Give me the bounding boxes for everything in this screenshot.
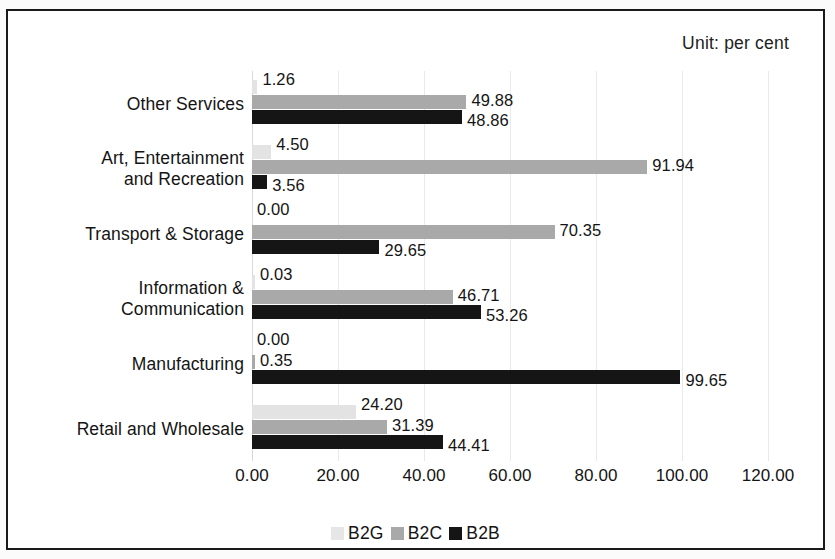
x-axis: 0.0020.0040.0060.0080.00100.00120.00 — [252, 466, 768, 492]
bar-group: 0.0070.3529.65 — [252, 210, 768, 257]
legend-label: B2B — [466, 523, 500, 544]
bar-b2b[interactable]: 48.86 — [252, 110, 462, 124]
bar-group: 0.000.3599.65 — [252, 340, 768, 387]
bar-b2c[interactable]: 49.88 — [252, 95, 466, 109]
category-row: Retail and Wholesale24.2031.3944.41 — [252, 396, 768, 461]
bar-b2c[interactable]: 91.94 — [252, 160, 647, 174]
x-tick-label: 40.00 — [402, 466, 445, 486]
legend-swatch-icon — [331, 527, 344, 540]
legend-label: B2G — [348, 523, 384, 544]
bar-b2c[interactable]: 70.35 — [252, 225, 555, 239]
bar-value-label: 29.65 — [384, 242, 426, 259]
bar-value-label: 0.03 — [260, 266, 293, 283]
bar-b2b[interactable]: 3.56 — [252, 175, 267, 189]
bar-b2c[interactable]: 31.39 — [252, 420, 387, 434]
bar-value-label: 3.56 — [272, 177, 305, 194]
plot-area: Other Services1.2649.8848.86Art, Enterta… — [252, 71, 768, 461]
x-tick-label: 120.00 — [742, 466, 795, 486]
bar-value-label: 44.41 — [448, 437, 490, 454]
x-tick-label: 60.00 — [488, 466, 531, 486]
chart-frame: Unit: per cent Other Services1.2649.8848… — [6, 9, 825, 550]
category-label: Art, Entertainment and Recreation — [0, 148, 244, 190]
legend-item-b2c[interactable]: B2C — [391, 523, 443, 544]
bar-b2g[interactable]: 24.20 — [252, 405, 356, 419]
category-row: Art, Entertainment and Recreation4.5091.… — [252, 136, 768, 201]
bar-group: 4.5091.943.56 — [252, 145, 768, 192]
bar-value-label: 24.20 — [361, 396, 403, 413]
legend-swatch-icon — [391, 527, 404, 540]
bar-value-label: 46.71 — [458, 287, 500, 304]
bar-b2g[interactable]: 1.26 — [252, 80, 257, 94]
bar-b2c[interactable]: 46.71 — [252, 290, 453, 304]
bar-b2b[interactable]: 53.26 — [252, 305, 481, 319]
category-label: Transport & Storage — [0, 223, 244, 244]
x-tick-label: 20.00 — [316, 466, 359, 486]
category-label: Retail and Wholesale — [0, 418, 244, 439]
chart-legend: B2GB2CB2B — [8, 523, 823, 544]
bar-b2b[interactable]: 99.65 — [252, 370, 680, 384]
category-label: Information & Communication — [0, 278, 244, 320]
legend-item-b2b[interactable]: B2B — [449, 523, 500, 544]
x-tick-label: 80.00 — [574, 466, 617, 486]
legend-swatch-icon — [449, 527, 462, 540]
x-tick-label: 0.00 — [235, 466, 269, 486]
bar-b2c[interactable]: 0.35 — [252, 355, 255, 369]
bar-value-label: 53.26 — [486, 307, 528, 324]
bar-value-label: 48.86 — [467, 112, 509, 129]
bar-value-label: 0.00 — [257, 331, 290, 348]
legend-item-b2g[interactable]: B2G — [331, 523, 384, 544]
bar-b2g[interactable]: 0.03 — [252, 275, 255, 289]
bar-value-label: 99.65 — [685, 372, 727, 389]
category-row: Transport & Storage0.0070.3529.65 — [252, 201, 768, 266]
bar-value-label: 70.35 — [560, 222, 602, 239]
page-background: Unit: per cent Other Services1.2649.8848… — [0, 0, 835, 559]
bar-value-label: 4.50 — [276, 136, 309, 153]
bar-b2g[interactable]: 4.50 — [252, 145, 271, 159]
gridline-120.00 — [768, 71, 769, 461]
bar-value-label: 1.26 — [262, 71, 295, 88]
category-row: Manufacturing0.000.3599.65 — [252, 331, 768, 396]
category-label: Manufacturing — [0, 353, 244, 374]
category-row: Information & Communication0.0346.7153.2… — [252, 266, 768, 331]
bar-group: 1.2649.8848.86 — [252, 80, 768, 127]
bar-value-label: 31.39 — [392, 417, 434, 434]
bar-value-label: 49.88 — [471, 92, 513, 109]
bar-value-label: 91.94 — [652, 157, 694, 174]
unit-annotation: Unit: per cent — [682, 33, 789, 54]
bar-b2b[interactable]: 44.41 — [252, 435, 443, 449]
bar-group: 24.2031.3944.41 — [252, 405, 768, 452]
bar-group: 0.0346.7153.26 — [252, 275, 768, 322]
bar-value-label: 0.35 — [260, 352, 293, 369]
legend-label: B2C — [408, 523, 443, 544]
bar-b2b[interactable]: 29.65 — [252, 240, 379, 254]
category-label: Other Services — [0, 93, 244, 114]
category-row: Other Services1.2649.8848.86 — [252, 71, 768, 136]
x-tick-label: 100.00 — [656, 466, 709, 486]
bar-value-label: 0.00 — [257, 201, 290, 218]
